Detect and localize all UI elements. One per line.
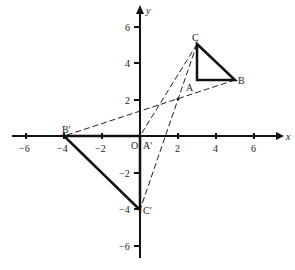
y-tick-label: 2 bbox=[125, 95, 130, 106]
triangle-abc bbox=[197, 44, 235, 80]
x-tick-label: −4 bbox=[57, 143, 68, 154]
y-axis-label: y bbox=[145, 5, 151, 16]
y-tick-label: −2 bbox=[119, 168, 130, 179]
label-a: A bbox=[186, 82, 194, 93]
origin-label: O bbox=[131, 140, 138, 151]
x-tick-label: −6 bbox=[19, 143, 30, 154]
label-c-prime: C' bbox=[143, 205, 152, 216]
center-of-enlargement bbox=[177, 98, 180, 101]
y-tick-label: 4 bbox=[125, 58, 130, 69]
y-tick-label: −6 bbox=[119, 241, 130, 252]
x-axis-arrow-icon bbox=[276, 132, 284, 140]
y-axis-arrow-icon bbox=[136, 5, 144, 14]
enlargement-diagram: −6 −4 −2 2 4 6 6 4 2 −2 −4 −6 y x O A B … bbox=[0, 0, 295, 270]
y-tick-label: 6 bbox=[125, 22, 130, 33]
x-tick-label: 6 bbox=[251, 143, 256, 154]
x-tick-label: −2 bbox=[95, 143, 106, 154]
x-tick-label: 4 bbox=[213, 143, 218, 154]
x-tick-label: 2 bbox=[175, 143, 180, 154]
dashed-line-b-bprime bbox=[64, 80, 235, 136]
label-c: C bbox=[192, 32, 199, 43]
dashed-line-c-cprime bbox=[140, 44, 197, 210]
label-b-prime: B' bbox=[62, 124, 71, 135]
label-b: B bbox=[238, 75, 245, 86]
x-axis-label: x bbox=[285, 131, 291, 142]
construction-lines bbox=[64, 44, 235, 210]
y-tick-label: −4 bbox=[119, 204, 130, 215]
label-a-prime: A' bbox=[143, 140, 152, 151]
axes bbox=[12, 10, 276, 258]
